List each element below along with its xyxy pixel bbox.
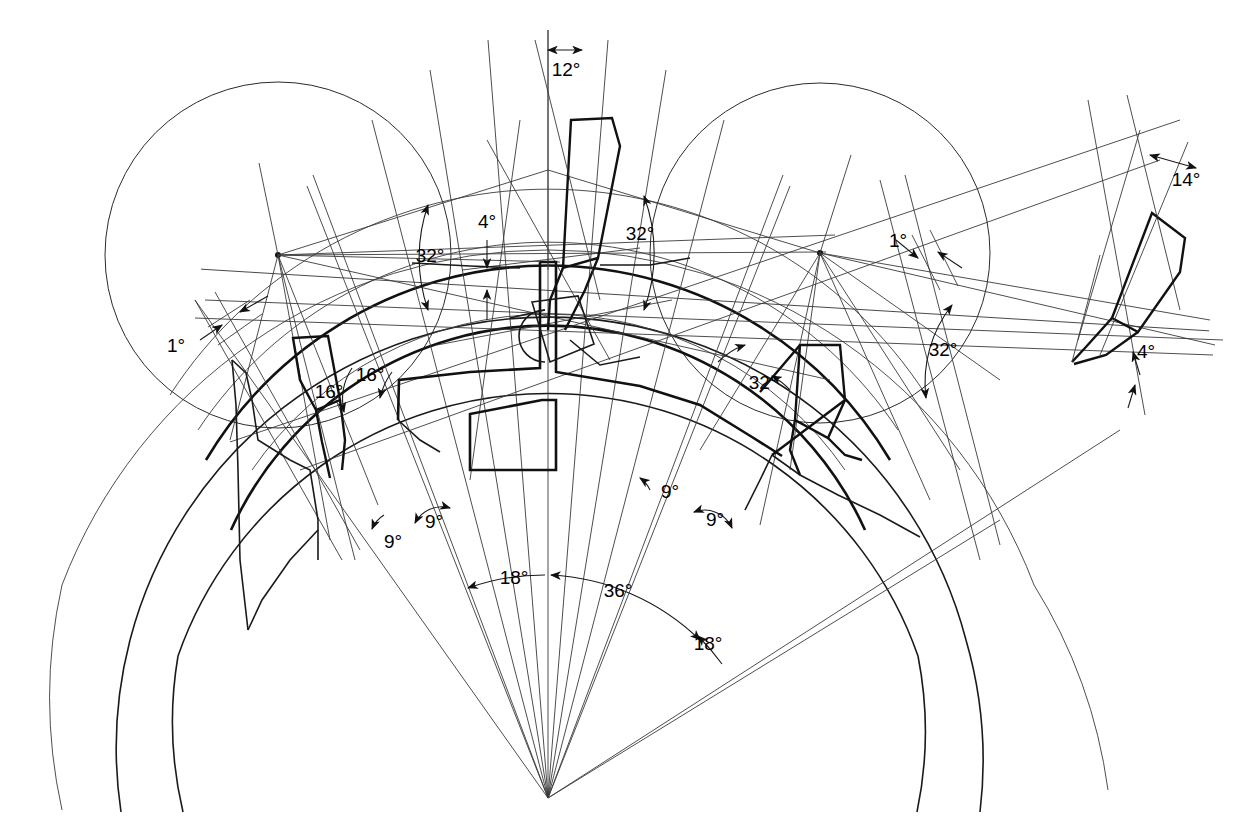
left-tooth-root: [248, 530, 318, 630]
inner-body-arc-left-leg: [172, 656, 183, 812]
dim-1deg-left: 1°: [167, 296, 268, 356]
dim-32deg-left: 32°: [416, 205, 445, 310]
dim-1deg-right: 1°: [889, 230, 962, 290]
dim-9LO-arc: [372, 515, 384, 529]
dim-label-32deg-right-tool: 32°: [749, 372, 778, 393]
dim-14-ext-1: [1078, 130, 1140, 340]
dim-1R-arrow2: [938, 252, 962, 268]
dim-label-16deg-inner: 16°: [315, 381, 344, 402]
left-ray-lower: [278, 255, 830, 380]
dim-label-4deg-left: 4°: [478, 211, 496, 232]
crossing-line-7: [905, 175, 1000, 545]
outer-body-arc-left-leg: [116, 640, 130, 812]
dim-label-18deg-right: 18°: [694, 633, 723, 654]
dim-label-4deg-right: 4°: [1137, 341, 1155, 362]
radial-right-45: [548, 430, 1120, 798]
dim-label-14deg: 14°: [1172, 169, 1201, 190]
inner-body-arc-right-leg: [917, 656, 925, 812]
dim-label-1deg-right: 1°: [889, 230, 907, 251]
dim-label-32deg-right: 32°: [929, 339, 958, 360]
dim-4R-arrow-dn: [1128, 385, 1135, 408]
radial-lines-group: [195, 30, 1120, 798]
right-ray-far2: [820, 253, 1215, 345]
dim-18deg-right: 18°: [694, 633, 723, 664]
radial-left-9: [430, 70, 548, 798]
dim-label-9deg-left-outer: 9°: [384, 531, 402, 552]
dim-1R-ext-1: [912, 235, 940, 290]
radial-right-40: [548, 520, 1000, 798]
dim-label-16deg-outer: 16°: [356, 364, 385, 385]
radial-right-9: [548, 70, 666, 798]
center-left-taper: [398, 420, 440, 452]
body-arcs-group: [50, 189, 1108, 812]
right-tooth-inner: [745, 455, 772, 510]
dim-32deg-right: 32°: [925, 305, 957, 398]
right-ray-far: [820, 253, 1210, 320]
dim-9deg-left-inner: 9°: [415, 507, 450, 532]
dim-9deg-right-inner: 9°: [640, 478, 679, 502]
central-tooth-profile: [398, 258, 782, 470]
dim-label-1deg-left: 1°: [167, 335, 185, 356]
dim-label-12deg: 12°: [552, 59, 581, 80]
dim-9RI-arc: [640, 478, 650, 490]
crossing-line-15: [1127, 95, 1180, 310]
dim-label-32deg-center: 32°: [626, 223, 655, 244]
dim-label-9deg-right-inner: 9°: [661, 481, 679, 502]
dim-label-36deg: 36°: [604, 580, 633, 601]
drawing-sheet: 12° 4° 32° 32° 1° 16° 16° 1°: [0, 0, 1233, 821]
dim-label-9deg-left-inner: 9°: [425, 511, 443, 532]
dim-label-9deg-right-outer: 9°: [706, 509, 724, 530]
outboard-right-cutter: [1072, 213, 1185, 364]
crossing-lines-group: [195, 95, 1223, 560]
center-flag-lower: [570, 340, 640, 365]
engineering-drawing-svg: 12° 4° 32° 32° 1° 16° 16° 1°: [0, 0, 1233, 821]
left-cutter-edge: [340, 400, 345, 470]
right-cutter-relief: [772, 400, 845, 455]
dim-36deg: 36°: [551, 575, 700, 640]
right-tooth-outline: [745, 455, 920, 537]
left-ray-up: [259, 163, 278, 255]
dim-1R-ext-2: [930, 230, 958, 286]
dim-label-18deg-left: 18°: [500, 567, 529, 588]
outer-envelope-arc-left-tail: [50, 585, 62, 810]
dim-9deg-left-outer: 9°: [372, 515, 402, 552]
radial-left-4p5: [488, 40, 548, 798]
dim-label-32deg-left: 32°: [416, 245, 445, 266]
dim-9deg-right-outer: 9°: [694, 509, 732, 530]
left-center-rays: [230, 163, 835, 560]
outer-envelope-arc-right-tail: [1034, 585, 1108, 790]
right-ray-up: [820, 155, 851, 253]
outer-body-arc-right-leg: [966, 640, 983, 812]
center-tooth-root-box: [470, 400, 556, 470]
crossing-line-14: [1088, 100, 1145, 415]
dim-1L-ext-1: [208, 300, 250, 327]
right-cutter-edge: [828, 438, 862, 460]
dim-18deg-left: 18°: [468, 567, 545, 588]
crossing-line-3: [205, 300, 1223, 340]
dim-14deg: 14°: [1078, 130, 1200, 355]
